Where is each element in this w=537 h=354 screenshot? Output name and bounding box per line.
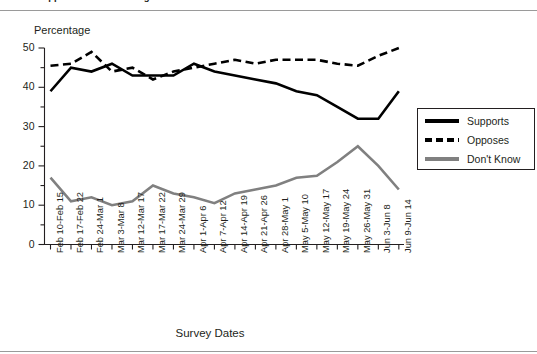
x-tick-label: May 19-May 24	[341, 188, 351, 252]
x-tick-label: Jun 9-Jun 14	[403, 199, 413, 253]
legend-swatch-supports	[425, 119, 459, 122]
legend-label-supports: Supports	[467, 115, 509, 127]
x-tick-label: Mar 12-Mar 17	[136, 192, 146, 253]
legend-swatch-dont-know	[425, 157, 459, 160]
y-tick-label: 30	[13, 120, 35, 132]
y-tick-label: 40	[13, 80, 35, 92]
y-tick-label: 10	[13, 198, 35, 210]
figure-root: Public Support for Abortion Rights Remai…	[0, 0, 537, 354]
x-tick-label: Mar 24-Mar 29	[177, 192, 187, 253]
y-tick-label: 50	[13, 41, 35, 53]
legend-item-dont-know[interactable]: Don't Know	[425, 151, 520, 167]
x-tick-label: Apr 1-Apr 6	[198, 205, 208, 253]
x-tick-label: Feb 10-Feb 15	[55, 192, 65, 253]
x-tick-label: Mar 17-Mar 22	[157, 192, 167, 253]
legend-item-supports[interactable]: Supports	[425, 113, 509, 129]
x-tick-label: Feb 17-Feb 22	[75, 192, 85, 253]
x-tick-label: Apr 7-Apr 12	[218, 200, 228, 253]
y-tick-label: 20	[13, 159, 35, 171]
x-tick-label: May 12-May 17	[321, 188, 331, 252]
series-line-supports	[51, 64, 399, 119]
y-tick-label: 0	[13, 238, 35, 250]
line-chart-plot	[0, 0, 537, 354]
x-tick-label: Apr 28-May 1	[280, 197, 290, 253]
x-tick-label: May 26-May 31	[362, 188, 372, 252]
chart-legend: Supports Opposes Don't Know	[417, 108, 535, 170]
x-tick-label: Mar 3-Mar 8	[116, 202, 126, 253]
legend-label-opposes: Opposes	[467, 134, 509, 146]
x-tick-label: May 5-May 10	[300, 194, 310, 253]
x-tick-label: Apr 21-Apr 26	[259, 195, 269, 253]
legend-label-dont-know: Don't Know	[467, 153, 520, 165]
x-tick-label: Apr 14-Apr 19	[239, 195, 249, 253]
x-tick-label: Feb 24-Mar 1	[95, 197, 105, 253]
legend-swatch-opposes	[425, 138, 459, 141]
x-tick-label: Jun 3-Jun 8	[382, 204, 392, 253]
legend-item-opposes[interactable]: Opposes	[425, 132, 509, 148]
